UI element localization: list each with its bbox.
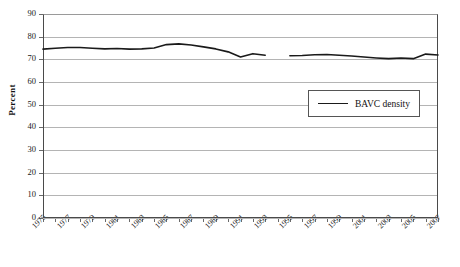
line-chart: Percent 0102030405060708090 197519771979…	[0, 0, 460, 267]
y-axis-tick-label: 90	[6, 8, 36, 18]
y-axis-tick-label: 40	[6, 121, 36, 131]
gridline	[43, 218, 438, 219]
series-line	[43, 44, 265, 57]
y-axis-tick-label: 0	[6, 212, 36, 222]
y-axis-tick-label: 30	[6, 144, 36, 154]
chart-legend: BAVC density	[308, 90, 420, 117]
series-line	[290, 54, 438, 59]
y-axis-tick-label: 50	[6, 99, 36, 109]
y-axis-tick-label: 80	[6, 31, 36, 41]
y-axis-tick-label: 10	[6, 189, 36, 199]
y-axis-tick-label: 70	[6, 53, 36, 63]
legend-label-bavc-density: BAVC density	[355, 99, 410, 109]
y-axis-tick-label: 60	[6, 76, 36, 86]
legend-swatch-bavc-density	[318, 103, 348, 104]
y-axis-tick-label: 20	[6, 167, 36, 177]
